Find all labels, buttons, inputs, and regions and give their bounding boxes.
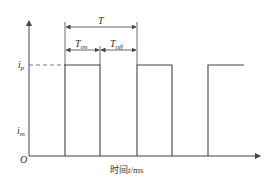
ip-label: ip [18,59,25,72]
toff-label: Toff [110,38,124,51]
period-label: T [98,15,105,26]
im-label: im [17,125,25,138]
ton-label: Ton [75,38,88,51]
x-axis-label: 时间t/ms [110,164,144,175]
square-wave-diagram: T Ton Toff ip im O 时间t/ms [0,0,271,185]
origin-label: O [20,154,27,165]
square-wave [65,65,244,156]
